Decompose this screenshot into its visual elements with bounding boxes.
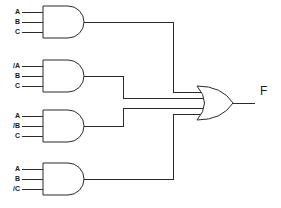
and-gate-4-output-wire	[84, 114, 203, 179]
and-gate-3-input-label-1: A	[15, 112, 20, 119]
and-gate-1-body	[43, 6, 84, 38]
and-gate-4-body	[43, 163, 84, 195]
or-gate: F	[197, 84, 267, 120]
and-gate-4-input-label-1: A	[15, 165, 20, 172]
and-gate-2-input-label-1: /A	[13, 62, 20, 69]
circuit-svg-canvas: A B C /A B C A /B C	[0, 0, 281, 208]
and-gate-2-input-label-3: C	[15, 82, 20, 89]
and-gate-1-output-wire	[84, 22, 203, 92]
and-gate-2-output-wire	[84, 76, 203, 98]
and-gate-1-input-label-2: B	[15, 18, 20, 25]
and-gate-2-body	[43, 60, 84, 92]
output-label-f: F	[260, 84, 267, 98]
and-gate-1-input-label-3: C	[15, 28, 20, 35]
and-gate-2-input-label-2: B	[15, 72, 20, 79]
and-gate-3-body	[43, 110, 84, 142]
and-gate-4-input-label-2: B	[15, 175, 20, 182]
logic-circuit-diagram: A B C /A B C A /B C	[0, 0, 281, 208]
and-gate-3: A /B C	[13, 108, 203, 142]
or-gate-body	[197, 86, 233, 120]
and-gate-1-input-label-1: A	[15, 8, 20, 15]
and-gate-4-input-label-3: /C	[13, 185, 20, 192]
and-gate-3-input-label-3: C	[15, 132, 20, 139]
and-gate-3-input-label-2: /B	[13, 122, 20, 129]
and-gate-3-output-wire	[84, 108, 203, 126]
